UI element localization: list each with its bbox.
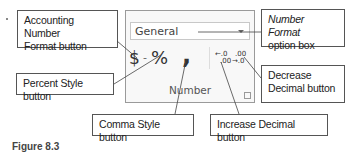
figure-caption: Figure 8.3 — [12, 141, 59, 152]
leader-lines — [0, 0, 357, 157]
